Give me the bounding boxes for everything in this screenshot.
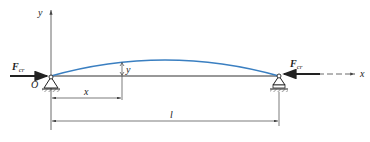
right-force-label: Fcr [289, 58, 303, 71]
diagram-canvas: y x Fcr Fcr O y x [0, 0, 370, 142]
position-label: x [83, 86, 89, 97]
deflection-label: y [125, 64, 131, 75]
left-force-label: Fcr [11, 61, 25, 74]
roller-support-icon [270, 74, 288, 92]
y-axis-label: y [37, 7, 43, 18]
buckling-diagram: y x Fcr Fcr O y x [0, 0, 370, 142]
x-axis-label: x [359, 68, 365, 79]
deflection-curve [51, 60, 279, 76]
length-label: l [170, 109, 173, 120]
pin-support-icon [42, 75, 60, 92]
origin-label: O [31, 79, 38, 90]
deflection-dimension [120, 62, 124, 100]
